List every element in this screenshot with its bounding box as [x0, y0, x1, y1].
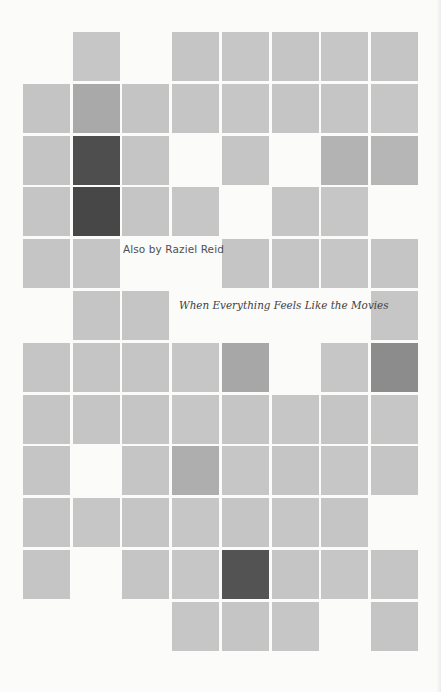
mosaic-square [73, 395, 120, 444]
mosaic-square [371, 136, 418, 185]
page-edge-shadow [436, 0, 441, 692]
mosaic-square [23, 446, 70, 495]
mosaic-square [272, 32, 319, 81]
mosaic-square [73, 239, 120, 288]
mosaic-square [73, 136, 120, 185]
book-title-when-everything-feels-like-the-movies: When Everything Feels Like the Movies [179, 299, 389, 311]
mosaic-square [371, 395, 418, 444]
mosaic-square [371, 602, 418, 651]
mosaic-square [321, 84, 368, 133]
mosaic-square [172, 32, 219, 81]
mosaic-square [272, 550, 319, 599]
mosaic-square [23, 239, 70, 288]
mosaic-square [272, 446, 319, 495]
book-page: Also by Raziel Reid When Everything Feel… [0, 0, 441, 692]
mosaic-square [222, 136, 269, 185]
mosaic-square [122, 498, 169, 547]
mosaic-square [321, 498, 368, 547]
mosaic-square [122, 395, 169, 444]
mosaic-square [321, 550, 368, 599]
mosaic-square [23, 550, 70, 599]
mosaic-square [321, 239, 368, 288]
mosaic-square [122, 187, 169, 236]
mosaic-square [371, 239, 418, 288]
mosaic-square [222, 498, 269, 547]
mosaic-square [172, 187, 219, 236]
mosaic-square [222, 239, 269, 288]
mosaic-square [321, 32, 368, 81]
mosaic-square [122, 550, 169, 599]
mosaic-square [73, 187, 120, 236]
mosaic-square [272, 187, 319, 236]
mosaic-square [371, 84, 418, 133]
mosaic-square [73, 343, 120, 392]
mosaic-square [23, 498, 70, 547]
mosaic-square [122, 136, 169, 185]
mosaic-square [222, 343, 269, 392]
mosaic-square [73, 84, 120, 133]
mosaic-square [23, 84, 70, 133]
mosaic-square [371, 32, 418, 81]
mosaic-square [172, 550, 219, 599]
mosaic-square [371, 446, 418, 495]
mosaic-square [23, 136, 70, 185]
mosaic-square [172, 395, 219, 444]
mosaic-square [172, 498, 219, 547]
mosaic-square [222, 550, 269, 599]
mosaic-square [321, 395, 368, 444]
mosaic-square [222, 395, 269, 444]
mosaic-square [122, 291, 169, 340]
mosaic-square [23, 395, 70, 444]
mosaic-square [272, 239, 319, 288]
mosaic-square [23, 343, 70, 392]
mosaic-square [222, 32, 269, 81]
mosaic-square [172, 602, 219, 651]
mosaic-square [122, 343, 169, 392]
mosaic-square [272, 602, 319, 651]
mosaic-square [172, 343, 219, 392]
mosaic-square [371, 550, 418, 599]
mosaic-square [73, 32, 120, 81]
mosaic-square [321, 343, 368, 392]
mosaic-square [272, 498, 319, 547]
mosaic-square [222, 602, 269, 651]
mosaic-square [222, 446, 269, 495]
mosaic-square [321, 187, 368, 236]
mosaic-square [122, 446, 169, 495]
square-mosaic-background [0, 0, 441, 692]
mosaic-square [371, 343, 418, 392]
mosaic-square [272, 84, 319, 133]
also-by-heading: Also by Raziel Reid [123, 243, 224, 255]
mosaic-square [321, 446, 368, 495]
mosaic-square [172, 84, 219, 133]
mosaic-square [172, 446, 219, 495]
mosaic-square [23, 187, 70, 236]
mosaic-square [73, 291, 120, 340]
mosaic-square [222, 84, 269, 133]
mosaic-square [122, 84, 169, 133]
mosaic-square [321, 136, 368, 185]
mosaic-square [73, 498, 120, 547]
mosaic-square [272, 395, 319, 444]
